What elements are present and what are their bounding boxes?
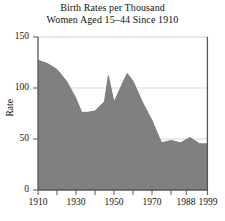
ytick-label-150: 150: [3, 32, 29, 42]
ytick-label-50: 50: [3, 134, 29, 144]
xtick-label-1950: 1950: [98, 198, 130, 208]
xtick-label-1970: 1970: [136, 198, 168, 208]
ytick-label-0: 0: [3, 185, 29, 195]
xtick-label-1930: 1930: [60, 198, 92, 208]
birth-rate-chart-figure: Birth Rates per Thousand Women Aged 15–4…: [0, 0, 225, 221]
y-axis-ticks: [33, 37, 38, 190]
xtick-label-1999: 1999: [192, 198, 224, 208]
area-series-birth-rate: [38, 60, 207, 190]
chart-plot-area: [0, 0, 225, 221]
y-axis-label: Rate: [6, 88, 16, 128]
xtick-label-1910: 1910: [22, 198, 54, 208]
x-axis-ticks: [38, 190, 207, 195]
